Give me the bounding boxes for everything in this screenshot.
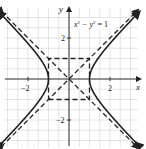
- y-tick-label-2: 2: [61, 34, 65, 43]
- y-tick-label-neg2: −2: [56, 116, 65, 125]
- y-axis-label: y: [58, 4, 63, 14]
- hyperbola-plot: x y −2 2 2 −2 x2 − y2 = 1: [0, 0, 146, 149]
- x-axis-label: x: [135, 82, 140, 92]
- x-tick-label-2: 2: [108, 84, 112, 93]
- equation-label: x2 − y2 = 1: [73, 18, 115, 29]
- x-tick-label-neg2: −2: [21, 84, 30, 93]
